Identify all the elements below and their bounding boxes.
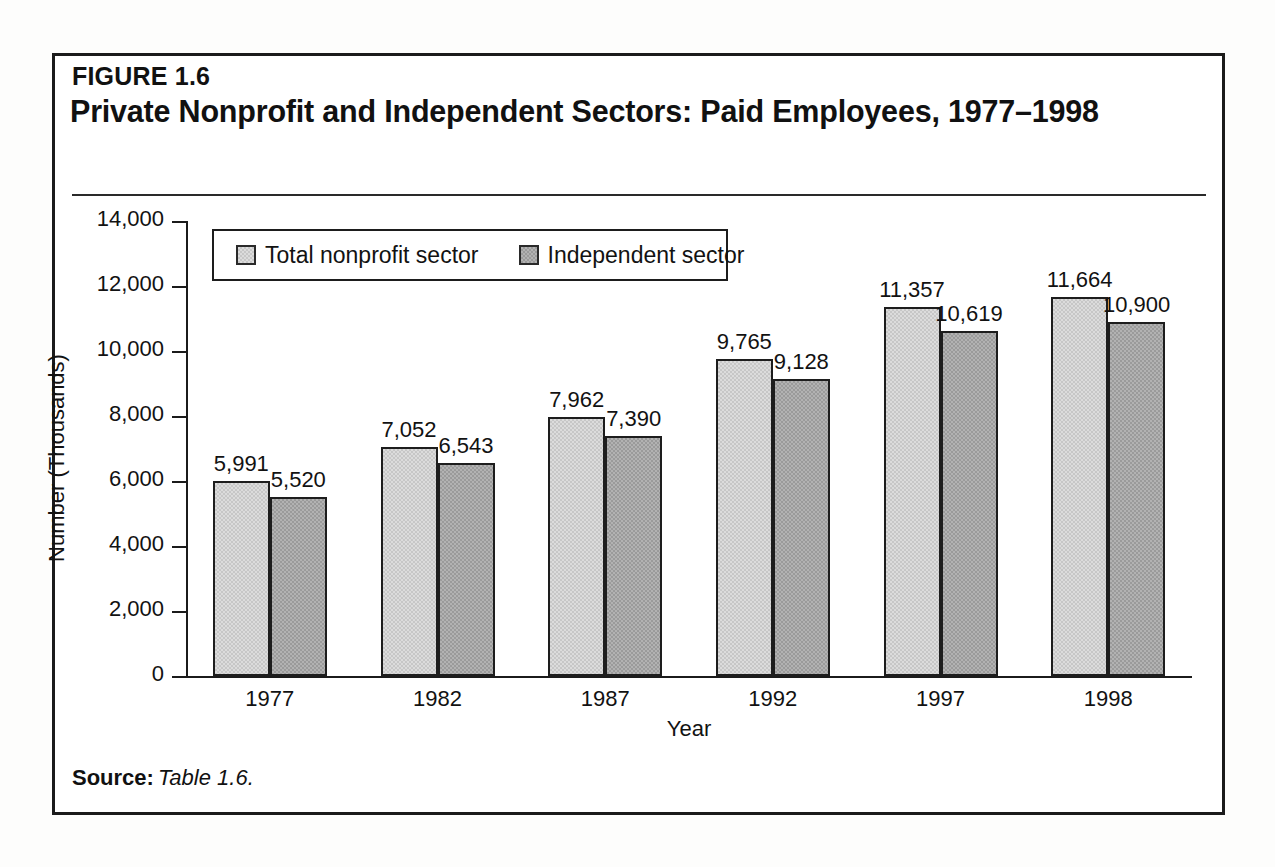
source-label: Source: — [72, 765, 154, 790]
legend-swatch-icon-total-nonprofit-sector — [236, 245, 256, 265]
figure-title: Private Nonprofit and Independent Sector… — [70, 92, 1190, 131]
legend-item-independent-sector: Independent sector — [519, 242, 745, 269]
source-note: Source:Table 1.6. — [72, 765, 254, 791]
source-value: Table 1.6. — [158, 765, 254, 790]
legend-label-total-nonprofit-sector: Total nonprofit sector — [265, 242, 479, 269]
legend-item-total-nonprofit-sector: Total nonprofit sector — [236, 242, 479, 269]
chart-legend: Total nonprofit sector Independent secto… — [212, 229, 728, 281]
legend-label-independent-sector: Independent sector — [548, 242, 745, 269]
figure-number: FIGURE 1.6 — [72, 62, 210, 91]
figure-root: FIGURE 1.6 Private Nonprofit and Indepen… — [0, 0, 1275, 867]
title-divider — [72, 194, 1206, 196]
legend-swatch-icon-independent-sector — [519, 245, 539, 265]
figure-border — [52, 53, 1225, 815]
